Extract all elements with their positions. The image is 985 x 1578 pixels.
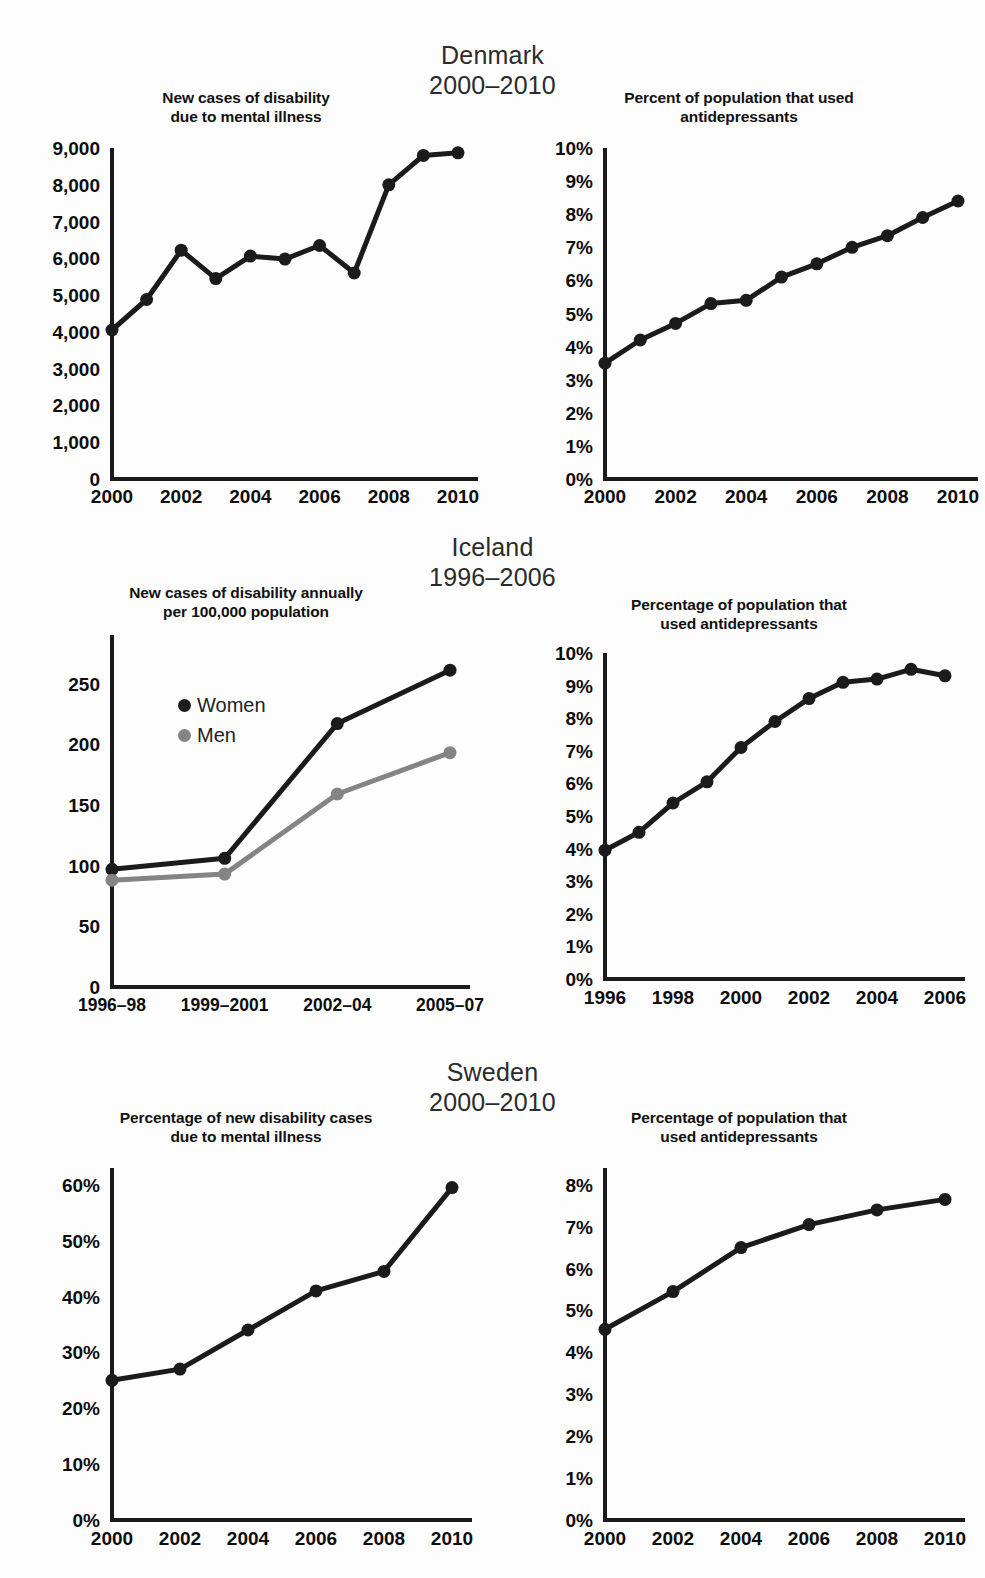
x-tick-label: 2004 (725, 486, 768, 507)
y-tick-label: 9% (566, 676, 594, 697)
country-name: Iceland (0, 532, 985, 562)
x-tick-label: 1998 (652, 987, 694, 1008)
panel-title-line2: per 100,000 population (0, 602, 492, 621)
data-point (444, 746, 457, 759)
series-line-iceland-antidepressants (605, 669, 945, 850)
plot-iceland-antidepressants: 0%1%2%3%4%5%6%7%8%9%10%19961998200020022… (493, 639, 985, 1035)
data-point (735, 1241, 748, 1254)
data-point (740, 294, 753, 307)
panel-iceland-antidepressants: Percentage of population that used antid… (493, 595, 985, 1035)
panel-title-line2: used antidepressants (493, 1127, 985, 1146)
y-tick-label: 3% (566, 370, 594, 391)
x-tick-label: 2000 (584, 486, 626, 507)
x-tick-label: 2000 (91, 1528, 133, 1549)
panel-title: Percent of population that used antidepr… (493, 88, 985, 126)
x-tick-label: 2004 (227, 1528, 270, 1549)
y-tick-label: 7,000 (52, 212, 100, 233)
data-point (905, 663, 918, 676)
data-point (209, 272, 222, 285)
data-point (769, 715, 782, 728)
y-tick-label: 2% (566, 904, 594, 925)
data-point (810, 257, 823, 270)
x-tick-label: 2006 (796, 486, 838, 507)
data-point (871, 673, 884, 686)
data-point (417, 149, 430, 162)
data-point (175, 244, 188, 257)
y-tick-label: 40% (62, 1287, 100, 1308)
chart-svg-iceland-disability: 0501001502002501996–981999–20012002–0420… (0, 627, 492, 1035)
chart-page: Denmark 2000–2010 New cases of disabilit… (0, 0, 985, 1578)
y-tick-label: 100 (68, 856, 100, 877)
legend-label-men: Men (197, 724, 236, 747)
x-tick-label: 2000 (91, 486, 133, 507)
y-tick-label: 150 (68, 795, 100, 816)
x-tick-label: 2010 (924, 1528, 966, 1549)
plot-denmark-antidepressants: 0%1%2%3%4%5%6%7%8%9%10%20002002200420062… (493, 132, 985, 518)
y-tick-label: 7% (566, 237, 594, 258)
y-tick-label: 2,000 (52, 395, 100, 416)
y-tick-label: 30% (62, 1342, 100, 1363)
panel-title-line2: due to mental illness (0, 107, 492, 126)
data-point (881, 229, 894, 242)
plot-sweden-disability: 0%10%20%30%40%50%60%20002002200420062008… (0, 1152, 492, 1568)
y-tick-label: 50% (62, 1231, 100, 1252)
x-tick-label: 2008 (363, 1528, 405, 1549)
x-tick-label: 2002 (654, 486, 696, 507)
series-line-sweden-disability (112, 1188, 452, 1381)
x-tick-label: 2010 (431, 1528, 473, 1549)
data-point (701, 775, 714, 788)
data-point (939, 1193, 952, 1206)
x-tick-label: 2002 (652, 1528, 694, 1549)
data-point (837, 676, 850, 689)
y-tick-label: 1% (566, 436, 594, 457)
y-tick-label: 50 (79, 916, 100, 937)
x-tick-label: 2000 (584, 1528, 626, 1549)
data-point (348, 267, 361, 280)
x-tick-label: 2006 (295, 1528, 337, 1549)
panel-title-line1: New cases of disability (0, 88, 492, 107)
y-tick-label: 6% (566, 270, 594, 291)
data-point (331, 788, 344, 801)
y-tick-label: 200 (68, 734, 100, 755)
y-tick-label: 8% (566, 708, 594, 729)
data-point (106, 874, 119, 887)
y-tick-label: 3% (566, 871, 594, 892)
y-tick-label: 6% (566, 1259, 594, 1280)
data-point (378, 1265, 391, 1278)
x-tick-label: 2008 (856, 1528, 898, 1549)
data-point (446, 1181, 459, 1194)
y-tick-label: 10% (555, 643, 593, 664)
x-tick-label: 2004 (229, 486, 272, 507)
data-point (279, 253, 292, 266)
data-point (444, 664, 457, 677)
x-tick-label: 2006 (298, 486, 340, 507)
x-tick-label: 2006 (924, 987, 966, 1008)
x-tick-label: 2002 (160, 486, 202, 507)
chart-svg-sweden-disability: 0%10%20%30%40%50%60%20002002200420062008… (0, 1152, 492, 1568)
y-tick-label: 6% (566, 773, 594, 794)
y-tick-label: 5% (566, 304, 594, 325)
y-tick-label: 10% (555, 138, 593, 159)
y-tick-label: 3,000 (52, 359, 100, 380)
data-point (667, 797, 680, 810)
data-point (313, 239, 326, 252)
data-point (331, 717, 344, 730)
panel-title-line1: Percentage of population that (493, 595, 985, 614)
data-point (803, 692, 816, 705)
data-point (803, 1218, 816, 1231)
y-tick-label: 8,000 (52, 175, 100, 196)
y-tick-label: 2% (566, 403, 594, 424)
panel-title-line1: Percentage of population that (493, 1108, 985, 1127)
y-tick-label: 10% (62, 1454, 100, 1475)
y-tick-label: 5% (566, 806, 594, 827)
data-point (106, 1374, 119, 1387)
x-tick-label: 2006 (788, 1528, 830, 1549)
data-point (174, 1363, 187, 1376)
panel-title: Percentage of new disability cases due t… (0, 1108, 492, 1146)
plot-iceland-disability: 0501001502002501996–981999–20012002–0420… (0, 627, 492, 1035)
panel-title: Percentage of population that used antid… (493, 1108, 985, 1146)
y-tick-label: 1% (566, 936, 594, 957)
chart-legend: Women Men (178, 690, 266, 750)
x-tick-label: 1996 (584, 987, 626, 1008)
data-point (452, 146, 465, 159)
